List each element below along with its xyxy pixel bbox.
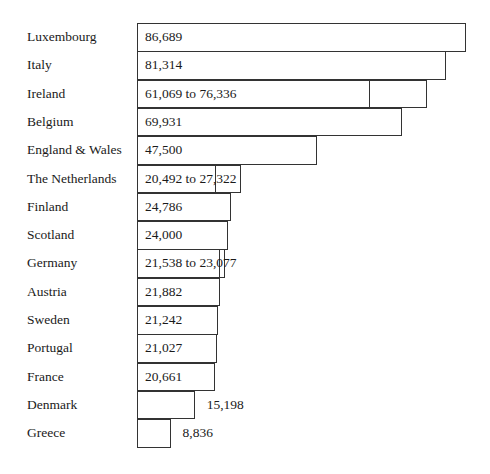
category-label: Portugal bbox=[27, 334, 73, 362]
value-label: 61,069 to 76,336 bbox=[145, 80, 237, 108]
value-label: 20,492 to 27,322 bbox=[145, 165, 237, 193]
category-label: Luxembourg bbox=[27, 23, 97, 51]
value-label: 21,027 bbox=[145, 334, 182, 362]
value-label: 69,931 bbox=[145, 108, 182, 136]
value-label: 81,314 bbox=[145, 51, 182, 79]
category-label: Germany bbox=[27, 249, 77, 277]
category-label: Scotland bbox=[27, 221, 74, 249]
value-label: 47,500 bbox=[145, 136, 182, 164]
horizontal-bar-chart: Luxembourg86,689Italy81,314Ireland61,069… bbox=[0, 0, 490, 474]
value-label: 20,661 bbox=[145, 363, 182, 391]
category-label: Italy bbox=[27, 51, 52, 79]
category-label: France bbox=[27, 363, 64, 391]
value-label: 24,000 bbox=[145, 221, 182, 249]
value-label: 15,198 bbox=[207, 391, 244, 419]
category-label: Finland bbox=[27, 193, 68, 221]
category-label: Denmark bbox=[27, 391, 77, 419]
category-label: Greece bbox=[27, 419, 65, 447]
category-label: England & Wales bbox=[27, 136, 122, 164]
bar bbox=[137, 23, 466, 52]
bar bbox=[137, 419, 171, 448]
value-label: 21,882 bbox=[145, 278, 182, 306]
value-label: 8,836 bbox=[183, 419, 213, 447]
category-label: Austria bbox=[27, 278, 67, 306]
value-label: 24,786 bbox=[145, 193, 182, 221]
category-label: Ireland bbox=[27, 80, 65, 108]
category-label: Sweden bbox=[27, 306, 70, 334]
bar bbox=[137, 51, 446, 80]
category-label: Belgium bbox=[27, 108, 74, 136]
value-label: 86,689 bbox=[145, 23, 182, 51]
range-low-marker bbox=[369, 81, 370, 108]
value-label: 21,242 bbox=[145, 306, 182, 334]
bar bbox=[137, 391, 195, 420]
category-label: The Netherlands bbox=[27, 165, 117, 193]
value-label: 21,538 to 23,077 bbox=[145, 249, 237, 277]
